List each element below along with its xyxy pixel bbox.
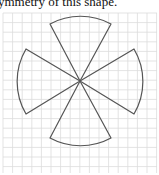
sector-top (50, 16, 111, 81)
sectors-figure (0, 0, 159, 175)
sector-bottom (50, 81, 111, 146)
grid (3, 13, 157, 173)
